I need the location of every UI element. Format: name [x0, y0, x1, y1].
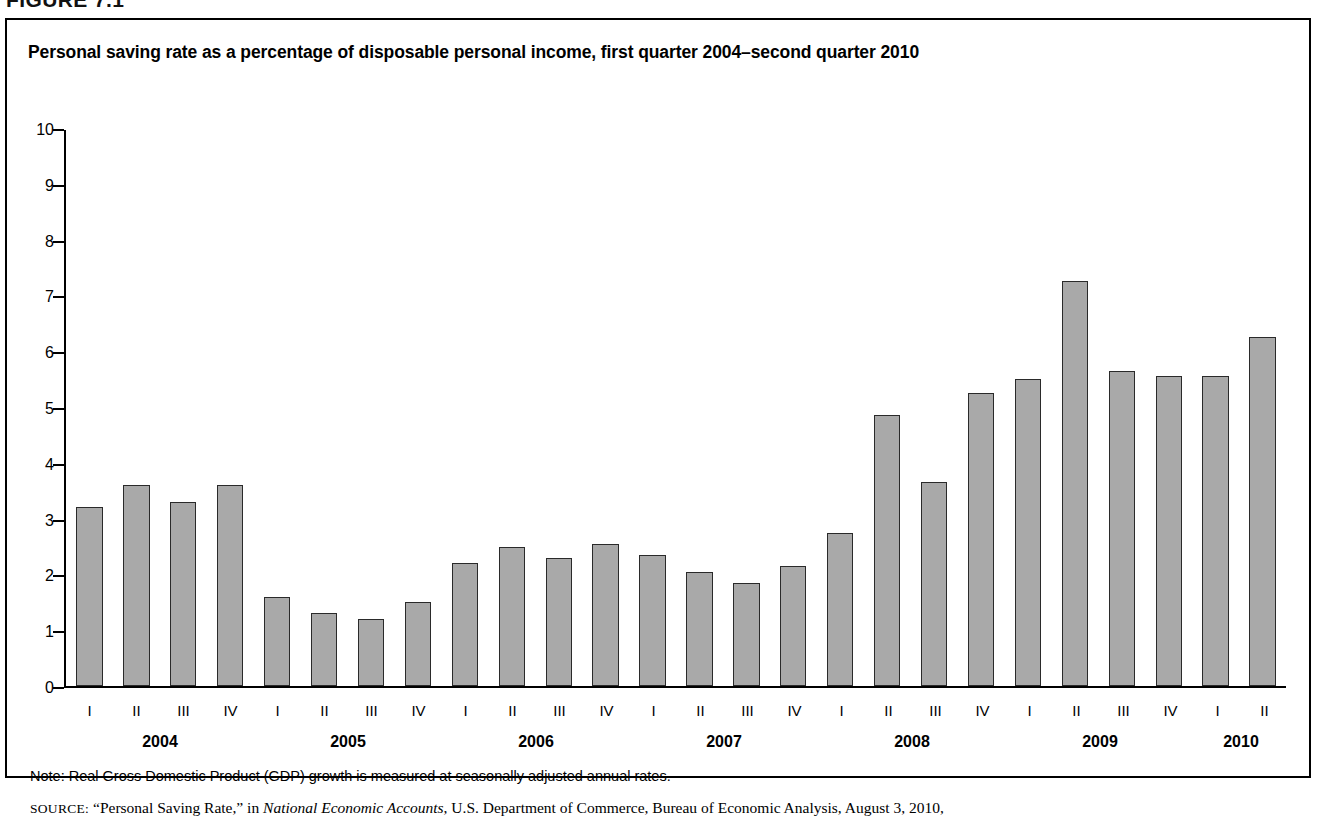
- quarter-label: III: [1100, 700, 1147, 722]
- quarter-label: II: [677, 700, 724, 722]
- y-axis-tick: [53, 129, 64, 131]
- bar: [499, 547, 525, 687]
- quarter-label: II: [1053, 700, 1100, 722]
- y-axis-tick: [53, 352, 64, 354]
- quarter-label: II: [489, 700, 536, 722]
- y-axis-tick-label: 10: [36, 122, 54, 138]
- bar-cell: [582, 130, 629, 686]
- y-axis-tick: [53, 631, 64, 633]
- bar: [968, 393, 994, 686]
- y-axis-tick: [53, 185, 64, 187]
- quarter-label: II: [301, 700, 348, 722]
- y-axis-tick: [53, 241, 64, 243]
- bar: [405, 602, 431, 686]
- quarter-label: I: [630, 700, 677, 722]
- source-title: “Personal Saving Rate,”: [93, 799, 243, 816]
- bar-cell: [1192, 130, 1239, 686]
- quarter-label: II: [865, 700, 912, 722]
- y-axis-tick: [53, 408, 64, 410]
- quarter-label: I: [66, 700, 113, 722]
- source-rest: , U.S. Department of Commerce, Bureau of…: [444, 799, 944, 816]
- x-axis-line: [64, 686, 1286, 688]
- year-label: 2006: [518, 730, 554, 754]
- bar-cell: [207, 130, 254, 686]
- y-axis-tick: [53, 520, 64, 522]
- bar: [874, 415, 900, 686]
- quarter-label: II: [113, 700, 160, 722]
- bar: [827, 533, 853, 686]
- bar-cell: [911, 130, 958, 686]
- quarter-label: I: [254, 700, 301, 722]
- bar-cell: [770, 130, 817, 686]
- quarter-label: III: [160, 700, 207, 722]
- bar-cell: [488, 130, 535, 686]
- bar: [170, 502, 196, 686]
- quarter-label: IV: [1147, 700, 1194, 722]
- bar: [1109, 371, 1135, 686]
- bar: [1015, 379, 1041, 686]
- year-label: 2009: [1082, 730, 1118, 754]
- quarter-label: I: [442, 700, 489, 722]
- quarter-label: III: [536, 700, 583, 722]
- x-axis-quarter-labels: IIIIIIIVIIIIIIIVIIIIIIIVIIIIIIIVIIIIIIIV…: [66, 700, 1288, 722]
- quarter-label: I: [818, 700, 865, 722]
- bar: [733, 583, 759, 686]
- source-publication: National Economic Accounts: [263, 799, 444, 816]
- bar-cell: [441, 130, 488, 686]
- bar-cell: [629, 130, 676, 686]
- bar: [1156, 376, 1182, 686]
- quarter-label: IV: [771, 700, 818, 722]
- quarter-label: IV: [395, 700, 442, 722]
- bar-cell: [535, 130, 582, 686]
- bar-cell: [66, 130, 113, 686]
- bar: [123, 485, 149, 686]
- bar: [452, 563, 478, 686]
- bar-cell: [1098, 130, 1145, 686]
- bar-cell: [1145, 130, 1192, 686]
- source-label: SOURCE:: [30, 801, 89, 816]
- bar-cell: [113, 130, 160, 686]
- bar: [1062, 281, 1088, 686]
- bar-cell: [1239, 130, 1286, 686]
- bar: [76, 507, 102, 686]
- bar: [1202, 376, 1228, 686]
- quarter-label: III: [724, 700, 771, 722]
- chart-title: Personal saving rate as a percentage of …: [28, 42, 1268, 63]
- bar-cell: [301, 130, 348, 686]
- quarter-label: IV: [959, 700, 1006, 722]
- chart-note: Note: Real Gross Domestic Product (GDP) …: [30, 768, 671, 784]
- quarter-label: IV: [207, 700, 254, 722]
- bar-cell: [394, 130, 441, 686]
- bar-cell: [348, 130, 395, 686]
- bar: [592, 544, 618, 686]
- bar-series: [66, 130, 1286, 686]
- year-label: 2004: [142, 730, 178, 754]
- bar: [217, 485, 243, 686]
- quarter-label: III: [348, 700, 395, 722]
- x-axis-year-labels: 2004200520062007200820092010: [66, 730, 1288, 754]
- y-axis-tick: [53, 296, 64, 298]
- year-label: 2005: [330, 730, 366, 754]
- bar: [686, 572, 712, 686]
- bar-cell: [160, 130, 207, 686]
- figure-page: FIGURE 7.1 Personal saving rate as a per…: [0, 0, 1321, 835]
- year-label: 2010: [1223, 730, 1259, 754]
- bar-cell: [1051, 130, 1098, 686]
- y-axis-tick: [53, 687, 64, 689]
- bar-cell: [958, 130, 1005, 686]
- chart-source: SOURCE: “Personal Saving Rate,” in Natio…: [30, 799, 944, 817]
- bar: [264, 597, 290, 686]
- year-label: 2007: [706, 730, 742, 754]
- figure-number-label: FIGURE 7.1: [6, 0, 124, 12]
- quarter-label: I: [1006, 700, 1053, 722]
- bar: [358, 619, 384, 686]
- bar-cell: [1004, 130, 1051, 686]
- bar-cell: [254, 130, 301, 686]
- bar: [639, 555, 665, 686]
- y-axis-labels: 012345678910: [20, 130, 54, 688]
- bar: [546, 558, 572, 686]
- year-label: 2008: [894, 730, 930, 754]
- bar: [780, 566, 806, 686]
- bar: [311, 613, 337, 686]
- bar-cell: [817, 130, 864, 686]
